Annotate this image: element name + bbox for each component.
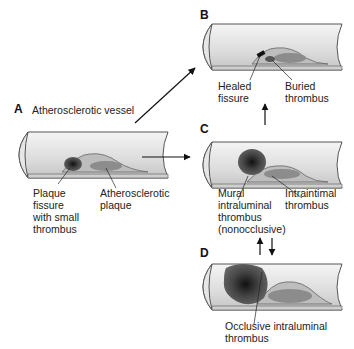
label-mural-thrombus: Mural intraluminal thrombus (nonocclusiv… [218, 187, 286, 235]
vessel-b [203, 24, 342, 80]
panel-a-title: Atherosclerotic vessel [32, 104, 134, 116]
panel-d-letter: D [200, 246, 209, 260]
label-buried-thrombus: Buried thrombus [285, 80, 329, 104]
vessel-a [19, 132, 168, 188]
label-atherosclerotic-plaque: Atherosclerotic plaque [100, 187, 169, 211]
vessel-d [203, 264, 342, 324]
panel-c-letter: C [200, 122, 209, 136]
panel-b-letter: B [200, 8, 209, 22]
label-healed-fissure: Healed fissure [218, 80, 251, 104]
label-occlusive-thrombus: Occlusive intraluminal thrombus [225, 320, 327, 344]
label-plaque-fissure: Plaque fissure with small thrombus [33, 187, 79, 235]
panel-a-letter: A [14, 102, 23, 116]
label-intraintimal-thrombus: Intraintimal thrombus [285, 187, 336, 211]
arrow-a-to-b [135, 68, 195, 123]
atherosclerosis-diagram [0, 0, 354, 349]
